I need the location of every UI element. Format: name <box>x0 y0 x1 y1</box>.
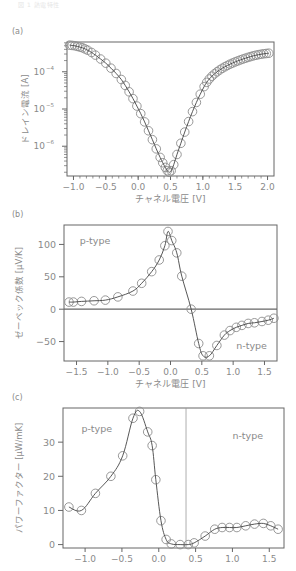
x-tick-label: −0.5 <box>128 367 150 377</box>
type-annotation: n-type <box>236 340 267 351</box>
type-annotation: p-type <box>81 423 112 434</box>
x-tick-label: 2.0 <box>260 182 275 192</box>
x-tick-label: −1.5 <box>66 367 88 377</box>
chart-panel-c: (c)−1.0−0.50.00.51.01.53020100p-typen-ty… <box>12 393 284 564</box>
type-annotation: p-type <box>80 235 111 246</box>
y-tick-exponent: −5 <box>46 102 55 108</box>
series-line <box>69 231 274 357</box>
x-tick-label: 0.5 <box>195 367 209 377</box>
x-tick-label: 0.0 <box>163 367 178 377</box>
panel-label: (a) <box>12 27 23 36</box>
chart-panel-a: (a)−1.0−0.50.00.51.01.52.010−410−510−6チャ… <box>12 27 275 204</box>
x-tick-label: −1.0 <box>74 554 96 564</box>
y-tick-label: −50 <box>36 336 56 347</box>
x-tick-label: 0.5 <box>163 182 177 192</box>
y-axis-label: ドレイン電流 [A] <box>20 74 30 143</box>
x-axis-label: チャネル電圧 [V] <box>135 379 205 389</box>
type-annotation: n-type <box>232 430 263 441</box>
x-tick-label: −0.5 <box>111 554 133 564</box>
y-tick-label: 0 <box>49 539 55 550</box>
y-tick-exponent: −6 <box>46 139 55 145</box>
x-tick-label: 0.0 <box>131 182 146 192</box>
x-tick-label: 1.5 <box>228 182 242 192</box>
y-tick-label: 10 <box>43 505 55 516</box>
x-axis-label: チャネル電圧 [V] <box>135 194 205 204</box>
chart-panel-b: (b)−1.5−1.0−0.50.00.51.01.5100500−50p-ty… <box>12 210 278 389</box>
x-tick-label: 0.0 <box>152 554 167 564</box>
y-tick-exponent: −4 <box>46 65 55 71</box>
x-tick-label: 1.0 <box>225 554 240 564</box>
y-tick-label: 50 <box>44 271 56 282</box>
x-tick-label: 0.5 <box>188 554 202 564</box>
data-point-marker <box>274 525 283 534</box>
y-tick-label: 10 <box>34 104 46 114</box>
y-axis-label: ゼーベック係数 [μV/K] <box>14 247 24 339</box>
y-axis-label: パワーファクター [μW/mK] <box>14 423 24 534</box>
panel-label: (c) <box>12 393 23 402</box>
x-tick-label: 1.0 <box>226 367 241 377</box>
x-tick-label: 1.0 <box>196 182 211 192</box>
x-tick-label: −1.0 <box>97 367 119 377</box>
y-tick-label: 20 <box>43 471 55 482</box>
y-tick-label: 0 <box>50 304 56 315</box>
y-tick-label: 10 <box>34 67 46 77</box>
y-tick-label: 100 <box>38 239 56 250</box>
x-tick-label: 1.5 <box>257 367 271 377</box>
x-tick-label: −0.5 <box>95 182 117 192</box>
panel-label: (b) <box>12 210 23 219</box>
x-tick-label: 1.5 <box>262 554 276 564</box>
x-tick-label: −1.0 <box>63 182 85 192</box>
figure-canvas: (a)−1.0−0.50.00.51.01.52.010−410−510−6チャ… <box>0 0 296 571</box>
y-tick-label: 30 <box>43 437 55 448</box>
y-tick-label: 10 <box>34 141 46 151</box>
